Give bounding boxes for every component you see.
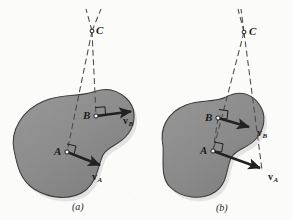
velocity-subscript: B (262, 132, 267, 140)
panel-b-graphics (162, 9, 267, 201)
velocity-subscript: A (273, 176, 278, 184)
point-marker-a (211, 149, 215, 153)
velocity-label-vb-panel-b: vB (257, 128, 267, 140)
velocity-label-vb-panel-a: vB (123, 116, 133, 128)
rigid-body-a (13, 89, 134, 197)
point-label-b-panel-b: B (205, 112, 212, 123)
center-label-c-panel-b: C (249, 26, 256, 37)
center-label-c-panel-a: C (96, 25, 103, 36)
point-label-a-panel-a: A (54, 146, 61, 157)
point-marker-b (94, 114, 98, 118)
point-marker-a (65, 150, 69, 154)
panel-caption-b: (b) (216, 202, 228, 213)
velocity-label-va-panel-b: vA (268, 172, 278, 184)
point-label-b-panel-a: B (83, 110, 90, 121)
point-marker-b (216, 116, 220, 120)
panel-caption-a: (a) (72, 201, 84, 212)
point-label-a-panel-b: A (200, 145, 207, 156)
panel-a-graphics (13, 9, 137, 201)
velocity-subscript: B (128, 120, 133, 128)
velocity-label-va-panel-a: vA (92, 172, 102, 184)
velocity-subscript: A (97, 176, 102, 184)
center-marker-c (90, 29, 94, 33)
construction-line-ca-extension (86, 9, 92, 31)
center-marker-c (242, 30, 246, 34)
figure-canvas: C A B vA vB (a) C A B vA vB (b) (0, 0, 293, 220)
rigid-body-b (162, 93, 264, 197)
